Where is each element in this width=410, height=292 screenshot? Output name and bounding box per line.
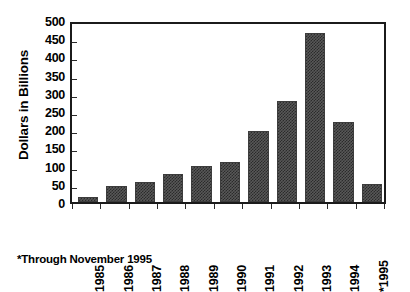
x-tick-label: 1989 [206, 248, 222, 292]
y-tick-label: 450 [34, 34, 65, 47]
y-axis-title: Dollars in Billions [14, 14, 32, 196]
y-tick-label: 400 [34, 52, 65, 65]
x-axis-tick-labels: 1985198619871988198919901991199219931994… [70, 206, 386, 250]
y-tick-label: 150 [34, 143, 65, 156]
bar-slot [301, 24, 329, 202]
bar-slot [102, 24, 130, 202]
bar-slot [329, 24, 357, 202]
y-tick-label: 500 [34, 16, 65, 29]
bar-slot [187, 24, 215, 202]
bar[interactable] [362, 184, 382, 202]
bar[interactable] [163, 174, 183, 202]
bar[interactable] [248, 131, 268, 202]
y-tick-label: 300 [34, 88, 65, 101]
bar[interactable] [305, 33, 325, 202]
bar-slot [216, 24, 244, 202]
y-axis-tick-labels: 050100150200250300350400450500 [34, 16, 65, 210]
y-tick-label: 250 [34, 107, 65, 120]
y-tick-label: 0 [34, 198, 65, 211]
x-tick-label: 1990 [234, 248, 250, 292]
bar[interactable] [135, 182, 155, 202]
x-tick-label: 1993 [319, 248, 335, 292]
x-tick-label: 1994 [347, 248, 363, 292]
x-tick-label: *1995 [376, 248, 392, 292]
y-tick-label: 350 [34, 70, 65, 83]
chart-footnote: *Through November 1995 [17, 253, 152, 265]
bar[interactable] [333, 122, 353, 202]
bar[interactable] [106, 186, 126, 202]
x-tick-label: 1988 [177, 248, 193, 292]
bar[interactable] [220, 162, 240, 202]
y-tick-label: 100 [34, 161, 65, 174]
bar-slot [159, 24, 187, 202]
plot-area [70, 22, 386, 204]
bar-slot [358, 24, 386, 202]
bar-slot [273, 24, 301, 202]
bar[interactable] [277, 101, 297, 202]
bar[interactable] [78, 197, 98, 202]
bar-series [74, 24, 382, 202]
bar-slot [244, 24, 272, 202]
x-tick-label: 1992 [291, 248, 307, 292]
x-tick-label: 1991 [262, 248, 278, 292]
plot-inner [72, 24, 384, 202]
y-tick-label: 50 [34, 179, 65, 192]
bar-slot [131, 24, 159, 202]
y-tick-label: 200 [34, 125, 65, 138]
y-axis-title-text: Dollars in Billions [16, 50, 31, 160]
bar[interactable] [191, 166, 211, 202]
bar-slot [74, 24, 102, 202]
